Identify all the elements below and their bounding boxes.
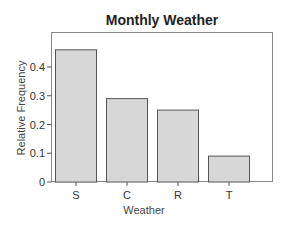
y-tick-label: 0 <box>39 176 45 188</box>
x-axis-ticks: SCRT <box>72 182 232 201</box>
y-axis-ticks: 00.10.20.30.4 <box>30 61 52 188</box>
bar-chart: Monthly Weather 00.10.20.30.4 SCRT Weath… <box>0 0 287 226</box>
bar-t <box>209 156 250 182</box>
chart-title: Monthly Weather <box>106 12 219 28</box>
y-axis-label: Relative Frequency <box>15 60 27 155</box>
x-axis-label: Weather <box>123 204 165 216</box>
bar-r <box>158 110 199 182</box>
x-tick-label: R <box>174 189 182 201</box>
bar-c <box>107 99 148 182</box>
y-tick-label: 0.2 <box>30 119 45 131</box>
x-tick-label: S <box>72 189 79 201</box>
x-tick-label: C <box>123 189 131 201</box>
x-tick-label: T <box>226 189 233 201</box>
bar-s <box>56 50 97 182</box>
y-tick-label: 0.1 <box>30 147 45 159</box>
y-tick-label: 0.4 <box>30 61 45 73</box>
y-tick-label: 0.3 <box>30 90 45 102</box>
bars-group <box>56 50 250 182</box>
